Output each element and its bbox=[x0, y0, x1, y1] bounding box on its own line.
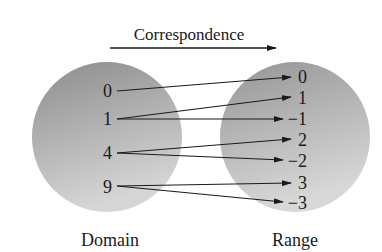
domain-value: 0 bbox=[103, 81, 112, 101]
domain-value: 9 bbox=[103, 177, 112, 197]
range-value: −1 bbox=[288, 109, 307, 129]
range-value: 0 bbox=[298, 67, 307, 87]
range-label: Range bbox=[272, 230, 318, 250]
correspondence-diagram: Correspondence 0 1 4 9 0 1 −1 2 −2 3 −3 … bbox=[0, 0, 382, 252]
range-value: 2 bbox=[298, 130, 307, 150]
diagram-title: Correspondence bbox=[134, 25, 244, 44]
range-value: −2 bbox=[288, 151, 307, 171]
range-value: −3 bbox=[288, 193, 307, 213]
range-set bbox=[220, 62, 370, 212]
range-value: 3 bbox=[298, 173, 307, 193]
range-value: 1 bbox=[298, 88, 307, 108]
domain-value: 4 bbox=[103, 143, 112, 163]
domain-label: Domain bbox=[81, 230, 139, 250]
domain-value: 1 bbox=[103, 109, 112, 129]
